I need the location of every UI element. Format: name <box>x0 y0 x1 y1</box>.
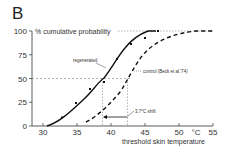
svg-text:50: 50 <box>175 128 184 137</box>
svg-text:75: 75 <box>18 51 27 60</box>
x-ticks: 30 35 40 45 50 °C 55 <box>39 123 218 137</box>
annotation-regenerated: regenerated <box>73 58 98 63</box>
y-axis-label: % cumulative probability <box>35 28 111 36</box>
svg-text:50: 50 <box>18 75 27 84</box>
annotation-control: control (Beck et al.'74) <box>143 69 188 74</box>
svg-text:25: 25 <box>18 98 27 107</box>
svg-text:40: 40 <box>107 128 116 137</box>
svg-text:55: 55 <box>209 128 218 137</box>
svg-text:35: 35 <box>73 128 82 137</box>
regenerated-points <box>61 30 159 119</box>
x-axis-label: threshold skin temperature <box>122 138 205 146</box>
y-ticks: 100 75 50 25 0 <box>14 27 32 131</box>
chart: 100 75 50 25 0 30 35 40 45 50 °C 55 thre… <box>0 0 227 153</box>
svg-text:30: 30 <box>39 128 48 137</box>
svg-text:100: 100 <box>14 27 28 36</box>
svg-text:°C: °C <box>192 128 201 137</box>
annotation-shift: 3.7°C shift <box>135 109 157 114</box>
svg-text:0: 0 <box>23 122 28 131</box>
svg-text:45: 45 <box>141 128 150 137</box>
